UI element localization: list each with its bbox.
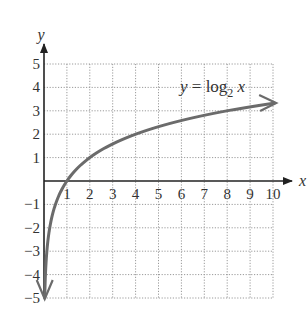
x-tick-label: 8: [223, 186, 231, 202]
y-tick-label: 3: [33, 103, 41, 119]
y-tick-label: −4: [24, 267, 40, 283]
equation-label: y = log2 x: [178, 77, 246, 100]
y-tick-label: 4: [33, 79, 41, 95]
y-tick-label: −5: [24, 290, 40, 306]
x-tick-label: 2: [86, 186, 94, 202]
x-tick-label: 1: [63, 186, 71, 202]
y-tick-label: 2: [33, 126, 41, 142]
x-tick-label: 7: [201, 186, 209, 202]
y-tick-label: −2: [24, 220, 40, 236]
y-tick-label: −3: [24, 243, 40, 259]
x-tick-label: 5: [155, 186, 163, 202]
y-axis-label: y: [35, 26, 45, 44]
x-tick-label: 4: [132, 186, 140, 202]
x-tick-label: 6: [178, 186, 186, 202]
log-chart: 12345678910−5−4−3−2−112345 xyy = log2 x: [0, 0, 308, 318]
y-tick-label: −1: [24, 196, 40, 212]
x-axis-label: x: [298, 172, 306, 189]
x-tick-label: 9: [246, 186, 254, 202]
y-tick-label: 1: [33, 150, 41, 166]
axes: [44, 44, 292, 298]
x-tick-label: 10: [266, 186, 281, 202]
x-tick-label: 3: [109, 186, 117, 202]
y-tick-label: 5: [33, 56, 41, 72]
